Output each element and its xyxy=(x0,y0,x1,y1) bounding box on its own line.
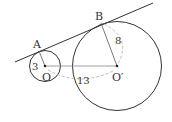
center-O-dot xyxy=(44,65,47,68)
label-O: O xyxy=(42,71,51,84)
center-Oprime-dot xyxy=(116,65,119,68)
label-A: A xyxy=(32,38,42,51)
label-radius-small: 3 xyxy=(32,61,38,72)
label-radius-large: 8 xyxy=(115,35,121,46)
label-center-distance: 13 xyxy=(77,75,90,86)
radius-OA xyxy=(39,51,45,66)
label-B: B xyxy=(95,10,103,23)
diagram-canvas: A B O O′ 3 8 13 xyxy=(0,0,172,122)
label-Oprime: O′ xyxy=(112,71,124,84)
